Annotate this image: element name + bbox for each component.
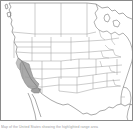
east-coast-outline	[121, 55, 133, 121]
great-lakes-outline	[94, 4, 133, 55]
northern-border	[9, 3, 132, 19]
us-outline-map	[1, 1, 133, 121]
map-figure: Map of the United States showing the hig…	[0, 0, 135, 134]
highlight-region-california	[16, 58, 41, 93]
figure-caption: Map of the United States showing the hig…	[1, 125, 121, 130]
map-frame	[0, 0, 133, 121]
southern-border	[28, 93, 133, 120]
